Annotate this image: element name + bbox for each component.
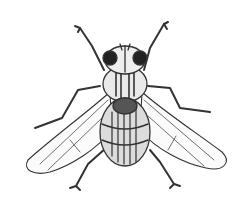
fly-drawing [0,0,252,200]
head [103,44,147,74]
abdomen [100,98,150,166]
right-wing [140,92,226,169]
fly-illustration [0,0,252,200]
